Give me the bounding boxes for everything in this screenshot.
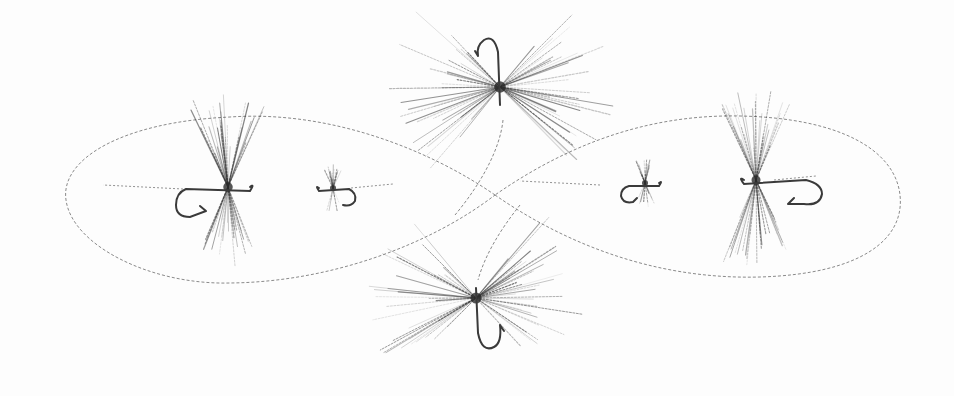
fly-tail <box>103 185 183 189</box>
hook-icon <box>176 186 253 217</box>
small-fly-right <box>520 159 661 207</box>
hackle-fibres <box>191 95 264 267</box>
fly-tail <box>520 181 600 185</box>
large-dry-fly-right <box>722 92 822 265</box>
spider-fly-top <box>388 12 612 168</box>
fly-tail <box>774 176 816 180</box>
spider-fly-bottom <box>369 217 582 353</box>
hackle-fibres <box>369 217 582 353</box>
fly-illustration <box>0 0 954 396</box>
small-fly-left <box>317 165 393 211</box>
large-dry-fly-left <box>103 95 264 267</box>
figure-eight-line <box>66 116 901 283</box>
flies-group <box>103 12 822 353</box>
bottom-fly-leader <box>478 205 520 280</box>
fly-tail <box>351 184 393 188</box>
